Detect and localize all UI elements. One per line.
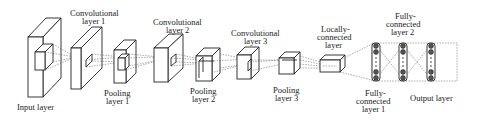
pooling-layer-3	[279, 52, 300, 74]
label-pool1-line2: layer 1	[106, 96, 129, 106]
projection-pool3-local	[300, 56, 320, 68]
pooling-layer-1	[114, 40, 136, 83]
label-local-line3: layer	[325, 40, 342, 50]
label-conv3-line2: layer 3	[244, 36, 267, 46]
label-conv2-line2: layer 2	[166, 25, 189, 35]
input-layer	[28, 18, 61, 97]
label-fc1-line3: layer 1	[362, 104, 385, 114]
conv-layer-1	[71, 27, 102, 89]
cnn-diagram: Input layer Convolutional layer 1 Poolin…	[0, 0, 482, 120]
label-pool3-line2: layer 3	[275, 93, 298, 103]
label-conv1-line2: layer 1	[82, 16, 105, 26]
label-output-layer: Output layer	[410, 93, 453, 103]
label-fc2-line3: layer 2	[391, 27, 414, 37]
conv-layer-2	[154, 34, 183, 82]
fully-connected-layer-2	[399, 43, 407, 81]
fully-connected-layer-1	[372, 43, 380, 81]
conv-layer-3	[237, 47, 259, 79]
label-input-layer: Input layer	[17, 102, 54, 112]
label-pool2-line2: layer 2	[192, 94, 215, 104]
locally-connected-layer	[320, 55, 345, 72]
pooling-layer-2	[196, 48, 220, 81]
fully-connected-connections	[372, 43, 457, 81]
output-layer	[427, 43, 435, 81]
